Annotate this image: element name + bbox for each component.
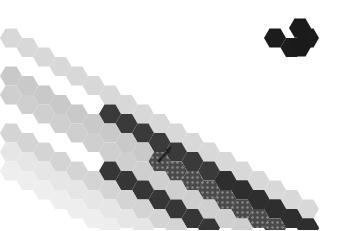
hexagon-quilt-photo	[0, 0, 346, 230]
hexagon-grid	[0, 19, 319, 231]
